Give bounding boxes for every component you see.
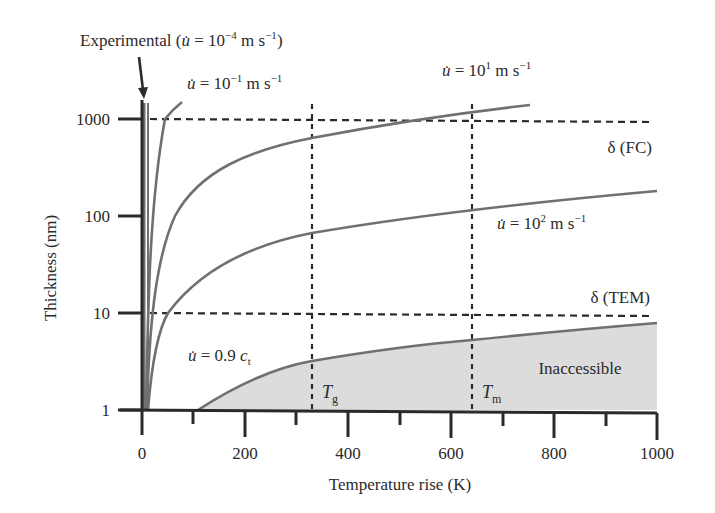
y-tick-label: 10 [93, 304, 110, 323]
x-tick-label: 1000 [640, 444, 674, 463]
x-axis-title: Temperature rise (K) [329, 475, 471, 494]
curve-u-10-minus1 [146, 102, 182, 410]
label-u-0-9-ct: u̇ = 0.9 ct [188, 346, 251, 367]
label-inaccessible: Inaccessible [538, 359, 621, 378]
label-delta-fc: δ (FC) [608, 138, 652, 157]
label-u-10-plus2: u̇ = 102 m s−1 [497, 212, 586, 233]
label-u-10-minus1: u̇ = 10−1 m s−1 [187, 72, 282, 93]
y-tick-label: 1 [102, 401, 111, 420]
x-tick-label: 200 [232, 444, 258, 463]
x-tick-label: 0 [138, 444, 147, 463]
label-experimental: Experimental (u̇ = 10−4 m s−1) [80, 29, 283, 50]
delta-tem-line [150, 313, 652, 316]
x-tick-label: 400 [335, 444, 361, 463]
label-delta-tem: δ (TEM) [591, 288, 650, 307]
y-tick-labels: 1000 100 10 1 [76, 110, 110, 420]
y-tick-label: 100 [85, 207, 111, 226]
x-tick-label: 800 [541, 444, 567, 463]
y-axis-title: Thickness (nm) [41, 215, 60, 321]
y-tick-label: 1000 [76, 110, 110, 129]
experimental-arrow [138, 57, 148, 99]
label-u-10-plus1: u̇ = 101 m s−1 [442, 59, 531, 80]
x-tick-labels: 0 200 400 600 800 1000 [138, 444, 674, 463]
x-axis [120, 410, 657, 413]
chart-svg: 1000 100 10 1 0 200 400 600 800 1000 Tem… [0, 0, 715, 513]
x-tick-label: 600 [438, 444, 464, 463]
